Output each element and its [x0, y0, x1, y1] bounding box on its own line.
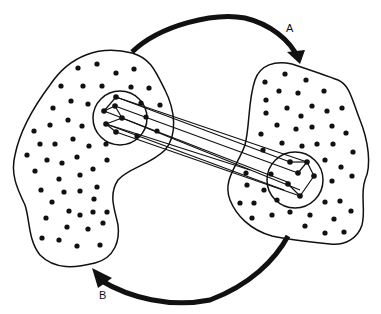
arrow-b — [92, 236, 288, 303]
diagram-canvas — [0, 0, 381, 314]
right-region-outline — [228, 63, 369, 245]
connection-lines — [104, 97, 314, 196]
arrow-a — [132, 17, 305, 64]
left-region-outline — [13, 50, 173, 266]
arrow-b-label: B — [99, 289, 106, 301]
arrow-a-label: A — [286, 22, 293, 34]
